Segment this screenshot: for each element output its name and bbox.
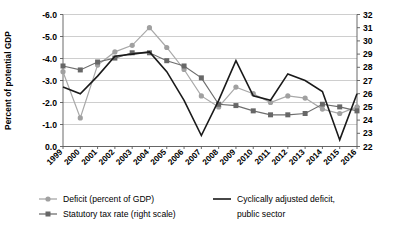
left-axis-tick-label: -3.0 — [42, 76, 57, 86]
legend-label-line2: public sector — [237, 209, 285, 219]
gridlines — [63, 15, 357, 147]
data-point — [285, 93, 290, 98]
right-axis-tick-label: 30 — [363, 36, 373, 46]
x-axis-tick-label: 2011 — [253, 147, 272, 166]
data-point — [337, 104, 342, 109]
data-point — [233, 85, 238, 90]
left-axis-tick-label: -1.0 — [42, 120, 57, 130]
data-point — [60, 69, 65, 74]
left-axis-tick-label: -5.0 — [42, 32, 57, 42]
left-axis-tick-label: -6.0 — [42, 10, 57, 20]
data-series-layer — [60, 25, 359, 140]
right-axis-tick-label: 31 — [363, 23, 373, 33]
legend-marker-square — [46, 212, 51, 217]
right-axis-tick-label: 23 — [363, 128, 373, 138]
x-axis-tick-label: 2015 — [322, 147, 342, 167]
series-statutory-tax-rate — [61, 50, 360, 117]
legend-label: Statutory tax rate (right scale) — [63, 209, 176, 219]
y-axis-title-text: Percent of potential GDP — [4, 31, 13, 130]
x-axis-tick-label: 2001 — [80, 147, 100, 167]
data-point — [164, 45, 169, 50]
x-axis-tick-label: 2004 — [132, 147, 152, 167]
x-axis-tick-label: 2006 — [166, 147, 186, 167]
x-axis-tick-label: 2008 — [201, 147, 221, 167]
data-point — [61, 63, 66, 68]
x-axis-tick-label: 2005 — [149, 147, 169, 167]
data-point — [112, 49, 117, 54]
data-point — [147, 25, 152, 30]
left-axis-tick-label: -4.0 — [42, 54, 57, 64]
data-point — [182, 63, 187, 68]
x-axis-tick-label: 2010 — [235, 147, 255, 167]
x-axis-tick-label: 2000 — [62, 147, 82, 167]
data-point — [337, 111, 342, 116]
data-point — [285, 112, 290, 117]
data-point — [78, 115, 83, 120]
data-point — [199, 93, 204, 98]
right-axis-tick-label: 26 — [363, 89, 373, 99]
data-point — [233, 103, 238, 108]
right-axis-tick-label: 24 — [363, 115, 373, 125]
right-axis-tick-label: 22 — [363, 142, 373, 152]
data-point — [320, 107, 325, 112]
series-line-deficit — [63, 28, 357, 118]
legend-marker-circle — [45, 196, 50, 201]
data-point — [199, 75, 204, 80]
chart-legend: Deficit (percent of GDP)Statutory tax ra… — [39, 194, 335, 219]
right-axis-tick-label: 27 — [363, 76, 373, 86]
data-point — [355, 108, 360, 113]
data-point — [251, 108, 256, 113]
series-deficit — [60, 25, 359, 120]
x-axis-tick-label: 2007 — [184, 147, 204, 167]
left-axis-tick-labels: -6.0-5.0-4.0-3.0-2.0-1.00.0 — [42, 10, 63, 152]
right-axis-tick-label: 29 — [363, 49, 373, 59]
legend-label: Cyclically adjusted deficit, — [237, 194, 335, 204]
x-axis-tick-label: 2013 — [287, 147, 307, 167]
x-axis-tick-label: 2009 — [218, 147, 238, 167]
right-axis-tick-label: 25 — [363, 102, 373, 112]
x-axis-tick-label: 2014 — [305, 147, 325, 167]
series-line-cyclically-adjusted-deficit — [63, 52, 357, 140]
right-axis-tick-label: 32 — [363, 10, 373, 20]
data-point — [78, 67, 83, 72]
right-axis-tick-labels: 3231302928272625242322 — [357, 10, 373, 152]
x-axis-tick-label: 2003 — [114, 147, 134, 167]
x-axis-tick-labels: 1999200020012002200320042005200620072008… — [45, 147, 359, 167]
legend-item-statutory-tax-rate: Statutory tax rate (right scale) — [39, 209, 176, 219]
data-point — [164, 58, 169, 63]
series-line-statutory-tax-rate — [63, 53, 357, 115]
x-axis-tick-label: 2016 — [339, 147, 359, 167]
y-axis-title: Percent of potential GDP — [4, 31, 13, 130]
chart-figure: -6.0-5.0-4.0-3.0-2.0-1.00.0 323130292827… — [0, 0, 404, 231]
data-point — [320, 102, 325, 107]
left-axis-tick-label: -2.0 — [42, 98, 57, 108]
legend-label: Deficit (percent of GDP) — [63, 194, 154, 204]
data-point — [130, 43, 135, 48]
data-point — [303, 111, 308, 116]
data-point — [268, 112, 273, 117]
legend-item-cyclically-adjusted-deficit: Cyclically adjusted deficit, — [213, 194, 335, 204]
x-axis-tick-label: 2012 — [270, 147, 290, 167]
right-axis-tick-label: 28 — [363, 62, 373, 72]
series-cyclically-adjusted-deficit — [63, 52, 357, 140]
data-point — [95, 60, 100, 65]
data-point — [303, 96, 308, 101]
legend-item-deficit: Deficit (percent of GDP) — [39, 194, 154, 204]
x-axis-tick-label: 2002 — [97, 147, 117, 167]
